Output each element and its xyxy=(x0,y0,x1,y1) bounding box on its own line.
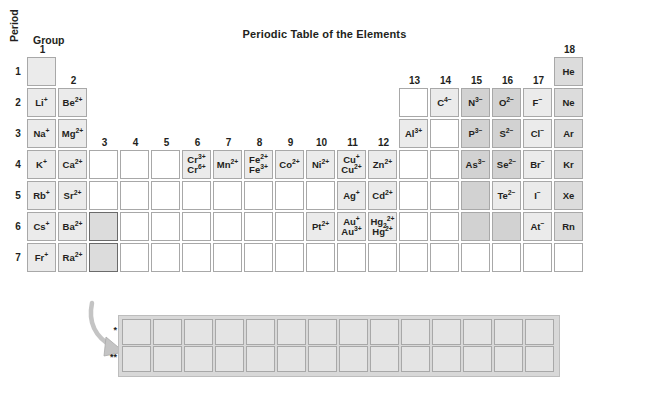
fblock-cell-lanthanide-3[interactable] xyxy=(184,319,213,345)
fblock-cell-actinide-13[interactable] xyxy=(494,346,523,372)
element-cell-g8-p7[interactable] xyxy=(244,243,273,272)
element-cell-g11-p6[interactable]: Au+Au3+ xyxy=(337,212,366,241)
element-cell-g17-p4[interactable]: Br− xyxy=(523,150,552,179)
fblock-cell-actinide-1[interactable] xyxy=(122,346,151,372)
fblock-cell-lanthanide-13[interactable] xyxy=(494,319,523,345)
element-cell-g2-p4[interactable]: Ca2+ xyxy=(58,150,87,179)
element-cell-g9-p6[interactable] xyxy=(275,212,304,241)
fblock-cell-lanthanide-11[interactable] xyxy=(432,319,461,345)
element-cell-g2-p7[interactable]: Ra2+ xyxy=(58,243,87,272)
element-cell-g14-p3[interactable] xyxy=(430,119,459,148)
fblock-cell-actinide-4[interactable] xyxy=(215,346,244,372)
element-cell-g15-p2[interactable]: N3− xyxy=(461,88,490,117)
fblock-cell-actinide-14[interactable] xyxy=(525,346,554,372)
element-cell-g17-p7[interactable] xyxy=(523,243,552,272)
element-cell-g16-p2[interactable]: O2− xyxy=(492,88,521,117)
fblock-cell-lanthanide-7[interactable] xyxy=(308,319,337,345)
element-cell-g14-p5[interactable] xyxy=(430,181,459,210)
element-cell-g4-p4[interactable] xyxy=(120,150,149,179)
element-cell-g12-p7[interactable] xyxy=(368,243,397,272)
element-cell-g7-p7[interactable] xyxy=(213,243,242,272)
element-cell-g17-p5[interactable]: I− xyxy=(523,181,552,210)
element-cell-g5-p6[interactable] xyxy=(151,212,180,241)
fblock-cell-lanthanide-1[interactable] xyxy=(122,319,151,345)
element-cell-g1-p2[interactable]: Li+ xyxy=(27,88,56,117)
fblock-cell-lanthanide-5[interactable] xyxy=(246,319,275,345)
fblock-cell-actinide-7[interactable] xyxy=(308,346,337,372)
element-cell-g8-p5[interactable] xyxy=(244,181,273,210)
element-cell-g1-p6[interactable]: Cs+ xyxy=(27,212,56,241)
element-cell-g14-p2[interactable]: C4− xyxy=(430,88,459,117)
element-cell-g13-p3[interactable]: Al3+ xyxy=(399,119,428,148)
fblock-cell-lanthanide-8[interactable] xyxy=(339,319,368,345)
element-cell-g2-p6[interactable]: Ba2+ xyxy=(58,212,87,241)
element-cell-g10-p6[interactable]: Pt2+ xyxy=(306,212,335,241)
element-cell-g3-p4[interactable] xyxy=(89,150,118,179)
fblock-cell-actinide-2[interactable] xyxy=(153,346,182,372)
element-cell-g17-p6[interactable]: At− xyxy=(523,212,552,241)
element-cell-g1-p7[interactable]: Fr+ xyxy=(27,243,56,272)
element-cell-g13-p2[interactable] xyxy=(399,88,428,117)
element-cell-g17-p2[interactable]: F− xyxy=(523,88,552,117)
element-cell-g7-p4[interactable]: Mn2+ xyxy=(213,150,242,179)
fblock-cell-actinide-5[interactable] xyxy=(246,346,275,372)
element-cell-g5-p5[interactable] xyxy=(151,181,180,210)
element-cell-g14-p7[interactable] xyxy=(430,243,459,272)
element-cell-g15-p6[interactable] xyxy=(461,212,490,241)
element-cell-g10-p5[interactable] xyxy=(306,181,335,210)
element-cell-g10-p4[interactable]: Ni2+ xyxy=(306,150,335,179)
fblock-cell-actinide-9[interactable] xyxy=(370,346,399,372)
element-cell-g9-p4[interactable]: Co2+ xyxy=(275,150,304,179)
fblock-cell-lanthanide-12[interactable] xyxy=(463,319,492,345)
element-cell-g12-p4[interactable]: Zn2+ xyxy=(368,150,397,179)
element-cell-g11-p5[interactable]: Ag+ xyxy=(337,181,366,210)
fblock-cell-actinide-8[interactable] xyxy=(339,346,368,372)
element-cell-g15-p7[interactable] xyxy=(461,243,490,272)
element-cell-g15-p4[interactable]: As3− xyxy=(461,150,490,179)
fblock-cell-actinide-12[interactable] xyxy=(463,346,492,372)
fblock-cell-lanthanide-6[interactable] xyxy=(277,319,306,345)
element-cell-g16-p6[interactable] xyxy=(492,212,521,241)
element-cell-g18-p4[interactable]: Kr xyxy=(554,150,583,179)
fblock-cell-actinide-11[interactable] xyxy=(432,346,461,372)
element-cell-g7-p6[interactable] xyxy=(213,212,242,241)
element-cell-g10-p7[interactable] xyxy=(306,243,335,272)
element-cell-g1-p4[interactable]: K+ xyxy=(27,150,56,179)
element-cell-g7-p5[interactable] xyxy=(213,181,242,210)
element-cell-g16-p4[interactable]: Se2− xyxy=(492,150,521,179)
element-cell-g3-p5[interactable] xyxy=(89,181,118,210)
fblock-cell-actinide-6[interactable] xyxy=(277,346,306,372)
element-cell-g13-p7[interactable] xyxy=(399,243,428,272)
element-cell-g4-p6[interactable] xyxy=(120,212,149,241)
element-cell-g15-p5[interactable] xyxy=(461,181,490,210)
element-cell-g11-p7[interactable] xyxy=(337,243,366,272)
element-cell-g3-p6[interactable] xyxy=(89,212,118,241)
element-cell-g14-p4[interactable] xyxy=(430,150,459,179)
element-cell-g12-p5[interactable]: Cd2+ xyxy=(368,181,397,210)
element-cell-g6-p4[interactable]: Cr3+Cr6+ xyxy=(182,150,211,179)
element-cell-g12-p6[interactable]: Hg22+Hg2+ xyxy=(368,212,397,241)
element-cell-g18-p7[interactable] xyxy=(554,243,583,272)
fblock-cell-lanthanide-9[interactable] xyxy=(370,319,399,345)
element-cell-g1-p1[interactable] xyxy=(27,57,56,86)
element-cell-g17-p3[interactable]: Cl− xyxy=(523,119,552,148)
element-cell-g18-p6[interactable]: Rn xyxy=(554,212,583,241)
element-cell-g18-p1[interactable]: He xyxy=(554,57,583,86)
element-cell-g1-p3[interactable]: Na+ xyxy=(27,119,56,148)
element-cell-g18-p5[interactable]: Xe xyxy=(554,181,583,210)
element-cell-g13-p5[interactable] xyxy=(399,181,428,210)
element-cell-g5-p4[interactable] xyxy=(151,150,180,179)
fblock-cell-actinide-10[interactable] xyxy=(401,346,430,372)
element-cell-g1-p5[interactable]: Rb+ xyxy=(27,181,56,210)
element-cell-g8-p6[interactable] xyxy=(244,212,273,241)
element-cell-g16-p7[interactable] xyxy=(492,243,521,272)
element-cell-g9-p5[interactable] xyxy=(275,181,304,210)
element-cell-g6-p7[interactable] xyxy=(182,243,211,272)
element-cell-g16-p5[interactable]: Te2− xyxy=(492,181,521,210)
element-cell-g11-p4[interactable]: Cu+Cu2+ xyxy=(337,150,366,179)
element-cell-g18-p2[interactable]: Ne xyxy=(554,88,583,117)
element-cell-g14-p6[interactable] xyxy=(430,212,459,241)
element-cell-g9-p7[interactable] xyxy=(275,243,304,272)
element-cell-g5-p7[interactable] xyxy=(151,243,180,272)
element-cell-g15-p3[interactable]: P3− xyxy=(461,119,490,148)
